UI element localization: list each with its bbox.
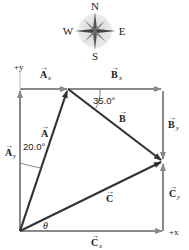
angle-label-A: 20.0° [23, 141, 45, 152]
angle-label-B: 35.0° [93, 95, 115, 106]
svg-text:→: → [41, 122, 49, 131]
label-A: A → [41, 122, 49, 139]
label-Cy: C y → [169, 182, 181, 201]
svg-text:y: y [175, 124, 180, 132]
svg-text:→: → [119, 107, 127, 116]
compass-east: E [119, 25, 126, 37]
y-axis-label: +y [14, 62, 24, 72]
svg-text:x: x [118, 74, 123, 82]
label-C: C → [106, 187, 114, 204]
label-By: B y → [168, 113, 180, 132]
svg-text:x: x [47, 74, 52, 82]
svg-text:x: x [98, 242, 103, 250]
label-Ay: A y → [5, 141, 17, 160]
svg-text:→: → [5, 141, 13, 150]
angle-arc-A [20, 163, 41, 168]
svg-text:→: → [168, 113, 176, 122]
vector-A [20, 91, 67, 231]
svg-text:→: → [111, 63, 119, 72]
label-Ax: A x → [40, 63, 52, 82]
compass-south: S [92, 50, 98, 62]
svg-text:→: → [106, 187, 114, 196]
compass-north: N [91, 0, 99, 12]
svg-text:→: → [40, 63, 48, 72]
angle-label-C: θ [43, 220, 48, 231]
label-B: B → [119, 107, 127, 124]
x-axis-label: +x [169, 227, 179, 237]
svg-text:→: → [169, 182, 177, 191]
compass-west: W [63, 25, 74, 37]
svg-text:→: → [91, 231, 99, 240]
svg-text:y: y [12, 152, 17, 160]
compass-rose-icon [75, 12, 116, 50]
vector-C [20, 162, 161, 231]
label-Bx: B x → [111, 63, 123, 82]
label-Cx: C x → [91, 231, 103, 250]
vector-diagram: N S W E +y +x A x → B x → B y → A → A y [0, 0, 189, 250]
svg-text:y: y [176, 193, 181, 201]
